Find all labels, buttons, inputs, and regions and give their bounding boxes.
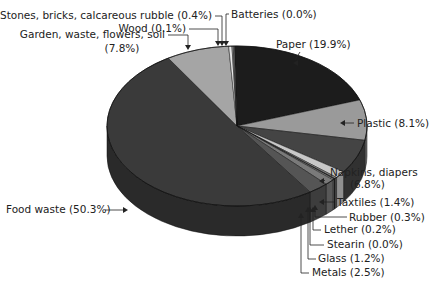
arrow-icon bbox=[215, 41, 221, 46]
label-glass: Glass (1.2%) bbox=[318, 252, 385, 264]
label-garden-waste-flowers-soil: (7.8%) bbox=[105, 42, 140, 54]
label-lether: Lether (0.2%) bbox=[324, 223, 396, 235]
pie-side-7 bbox=[326, 180, 333, 214]
pie-top-surface bbox=[107, 46, 367, 206]
callout-line bbox=[215, 16, 222, 44]
label-stones-bricks-calcareous-rubble: Stones, bricks, calcareous rubble (0.4%) bbox=[0, 9, 212, 21]
arrow-icon bbox=[123, 207, 128, 213]
label-napkins-diapers: Napkins, diapers bbox=[330, 166, 418, 178]
label-batteries: Batteries (0.0%) bbox=[231, 8, 317, 20]
label-rubber: Rubber (0.3%) bbox=[349, 211, 425, 223]
label-stearin: Stearin (0.0%) bbox=[327, 238, 403, 250]
callout-line bbox=[168, 35, 188, 46]
arrow-icon bbox=[185, 45, 191, 50]
callout-line bbox=[226, 14, 229, 44]
label-paper: Paper (19.9%) bbox=[276, 38, 351, 50]
label-garden-waste-flowers-soil: Garden, waste, flowers, soil bbox=[20, 28, 165, 40]
callout-line bbox=[189, 29, 218, 44]
label-napkins-diapers: (6.8%) bbox=[350, 178, 385, 190]
arrow-icon bbox=[223, 41, 229, 46]
label-taxtiles: Taxtiles (1.4%) bbox=[336, 196, 414, 208]
pie-chart: Stones, bricks, calcareous rubble (0.4%)… bbox=[0, 0, 430, 284]
label-plastic: Plastic (8.1%) bbox=[357, 117, 429, 129]
label-food-waste: Food waste (50.3%) bbox=[6, 203, 110, 215]
label-metals: Metals (2.5%) bbox=[312, 266, 385, 278]
